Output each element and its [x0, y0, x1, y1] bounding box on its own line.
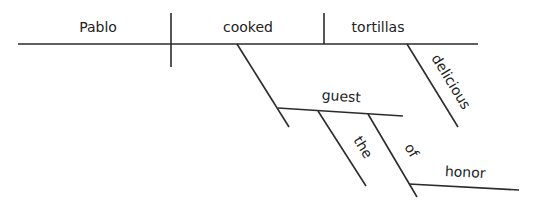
direct-object-word: tortillas	[352, 19, 405, 35]
prepositional-object-line	[409, 184, 519, 190]
object-modifier-word: delicious	[428, 51, 474, 112]
indirect-object-word: guest	[321, 87, 362, 106]
prepositional-object-word: honor	[445, 163, 487, 181]
preposition-word: of	[401, 140, 422, 161]
subject-word: Pablo	[79, 19, 117, 35]
sentence-diagram: Pablo cooked tortillas delicious guest t…	[0, 0, 535, 201]
verb-word: cooked	[223, 19, 273, 35]
indirect-object-slant	[237, 44, 289, 127]
indirect-object-line	[278, 108, 403, 116]
article-word: the	[350, 133, 376, 161]
